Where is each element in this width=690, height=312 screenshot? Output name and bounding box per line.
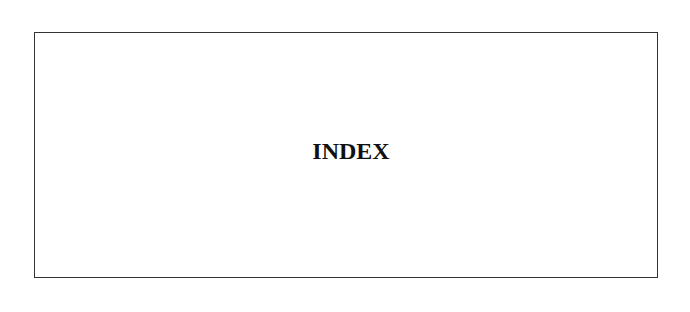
page-title: INDEX (45, 137, 657, 165)
index-title-frame: INDEX (34, 32, 658, 278)
